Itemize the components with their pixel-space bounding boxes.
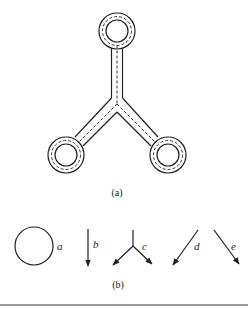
label-a: a [57,240,63,252]
y-network-diagram [48,13,186,173]
caption-b: (b) [103,279,133,290]
label-d: d [194,240,200,252]
label-e: e [231,240,236,252]
element-a-circle [15,227,53,265]
label-c: c [142,240,147,252]
label-b: b [93,238,99,250]
dashed-centerlines [52,17,183,170]
caption-a: (a) [102,187,132,198]
figure-canvas [0,0,248,309]
bottom-rule [0,304,248,306]
